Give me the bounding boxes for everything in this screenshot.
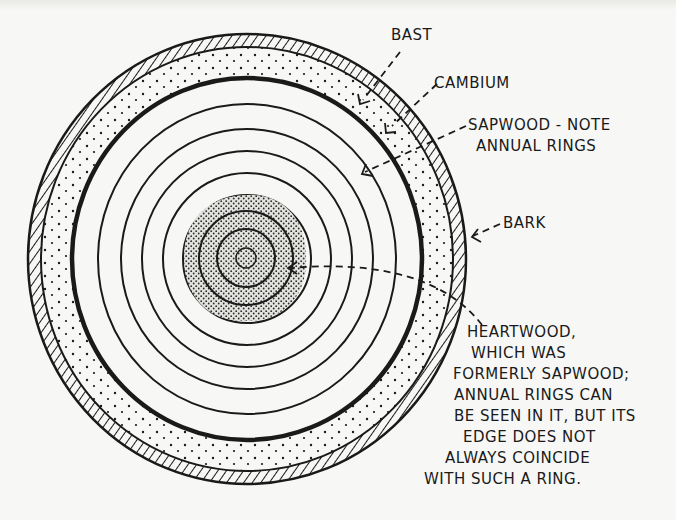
heartwood-line: FORMERLY SAPWOOD; <box>453 365 630 384</box>
heartwood-line: EDGE DOES NOT <box>463 428 596 447</box>
heartwood-line: BE SEEN IN IT, BUT ITS <box>454 407 636 426</box>
heartwood-line: ANNUAL RINGS CAN <box>454 386 613 405</box>
bark-arrow-icon <box>472 229 481 242</box>
heartwood-layer <box>184 195 306 321</box>
heartwood-line: WHICH WAS <box>471 344 566 363</box>
label-sapwood-line1: SAPWOOD - NOTE <box>468 116 611 135</box>
label-cambium: CAMBIUM <box>434 74 510 93</box>
label-sapwood-line2: ANNUAL RINGS <box>476 137 596 156</box>
label-bark: BARK <box>503 214 546 233</box>
label-bast: BAST <box>391 26 432 45</box>
heartwood-line: WITH SUCH A RING. <box>424 470 581 489</box>
heartwood-line: HEARTWOOD, <box>467 323 576 342</box>
heartwood-line: ALWAYS COINCIDE <box>445 449 590 468</box>
